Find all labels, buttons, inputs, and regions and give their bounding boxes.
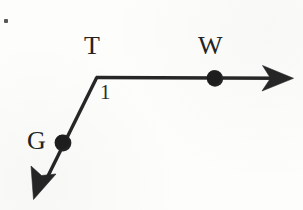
ray-tw-line [96, 78, 280, 79]
scan-artifact-dot-icon [4, 19, 8, 23]
diagram-canvas [0, 0, 303, 210]
ray-tg-line [45, 77, 97, 182]
node-dot-w-core [207, 70, 221, 84]
diagram-figure: T W G 1 [0, 0, 303, 210]
angle-label-1: 1 [100, 82, 111, 103]
vertex-label-g: G [27, 128, 46, 154]
node-dot-g-core [55, 135, 69, 149]
vertex-label-w: W [198, 33, 223, 59]
vertex-label-t: T [84, 33, 100, 59]
